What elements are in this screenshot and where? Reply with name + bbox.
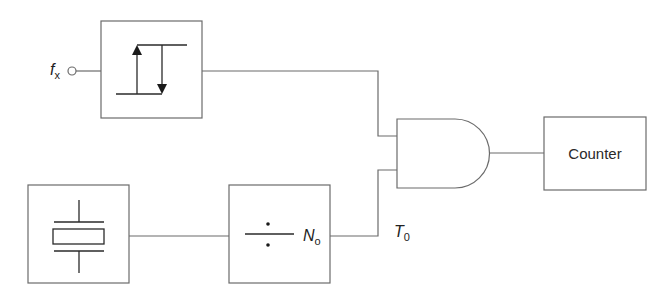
- input-frequency-label: fx: [50, 62, 60, 81]
- wire-schmitt-to-and: [202, 71, 397, 136]
- wire-divider-to-and: [330, 170, 397, 236]
- and-gate-symbol: [397, 119, 490, 188]
- input-terminal-circle: [68, 67, 76, 75]
- gate-time-label: T0: [394, 224, 410, 243]
- counter-label: Counter: [544, 117, 646, 190]
- divider-ratio-label: No: [303, 228, 321, 247]
- schmitt-trigger-block: [101, 21, 202, 118]
